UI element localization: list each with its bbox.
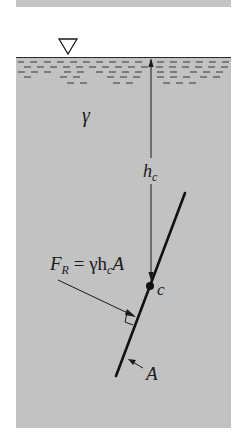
surface-dashes — [18, 62, 229, 83]
centroid-dot — [146, 282, 154, 290]
area-leader-arrowhead-icon — [128, 359, 136, 365]
resultant-force-label: FR = γhcA — [49, 253, 124, 277]
resultant-force-line — [58, 280, 134, 316]
area-label: A — [144, 363, 158, 384]
centroid-label: c — [157, 280, 165, 299]
depth-arrowhead-up-icon — [149, 58, 154, 67]
free-surface-triangle-icon — [59, 39, 77, 54]
specific-weight-label: γ — [82, 104, 91, 127]
depth-label: hc — [143, 161, 158, 184]
hydrostatic-force-diagram: hc γ c FR = γhcA A — [0, 0, 243, 439]
